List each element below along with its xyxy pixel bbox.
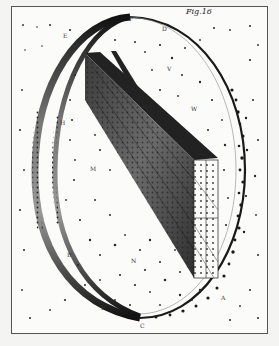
label-n: N bbox=[131, 258, 136, 264]
figure-caption: Fig.16 bbox=[186, 7, 212, 16]
label-e: E bbox=[63, 33, 67, 39]
label-h: H bbox=[60, 120, 65, 126]
star-ring-illustration bbox=[0, 0, 279, 346]
label-b: B bbox=[67, 252, 71, 258]
label-w: W bbox=[191, 106, 197, 112]
label-c: C bbox=[140, 323, 145, 329]
label-v: V bbox=[167, 66, 171, 72]
label-a: A bbox=[221, 295, 225, 301]
label-p: P bbox=[101, 305, 105, 311]
label-d: D bbox=[162, 26, 167, 32]
star-prism bbox=[85, 51, 218, 278]
label-m: M bbox=[90, 166, 96, 172]
label-f: F bbox=[129, 16, 133, 22]
engraving-plate: Fig.16 F D E V W H M B N A P C bbox=[0, 0, 279, 346]
